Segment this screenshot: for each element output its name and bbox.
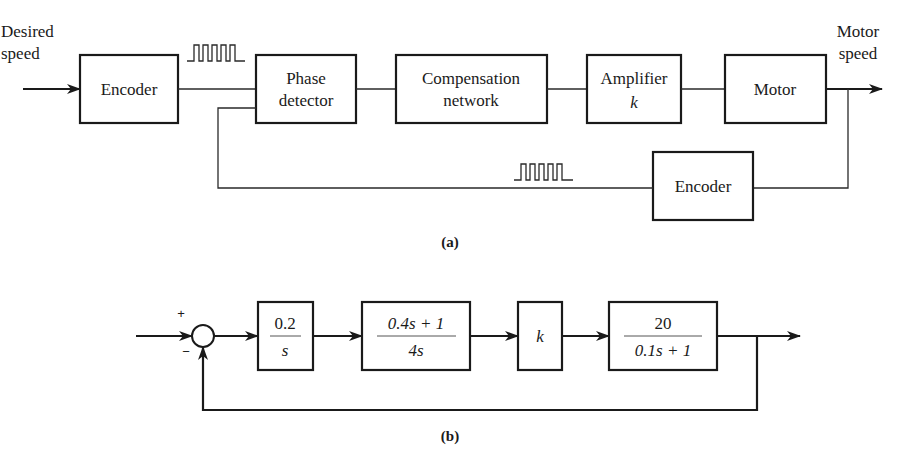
encoder-feedback-block: Encoder bbox=[653, 152, 753, 220]
caption-b: (b) bbox=[441, 428, 459, 445]
input-label-desired: Desired bbox=[1, 22, 54, 41]
tf-block-compensator: 0.4s + 1 4s bbox=[362, 302, 470, 370]
encoder-feedback-label: Encoder bbox=[675, 177, 732, 196]
tf2-numerator: 0.4s + 1 bbox=[388, 314, 444, 333]
compensation-label-1: Compensation bbox=[422, 69, 521, 88]
caption-a: (a) bbox=[441, 234, 459, 251]
encoder-forward-block: Encoder bbox=[80, 55, 178, 123]
compensation-network-block: Compensation network bbox=[396, 55, 547, 123]
block-diagram-canvas: Desired speed Encoder Phase detector Com… bbox=[0, 0, 904, 461]
tf-block-gain: k bbox=[518, 302, 562, 370]
tf-block-integrator: 0.2 s bbox=[258, 302, 313, 370]
input-label-speed: speed bbox=[1, 44, 40, 63]
tf3-gain: k bbox=[536, 327, 544, 346]
tf-block-motor: 20 0.1s + 1 bbox=[609, 302, 717, 370]
amplifier-label: Amplifier bbox=[600, 69, 667, 88]
tf4-numerator: 20 bbox=[655, 314, 672, 333]
phase-detector-label-1: Phase bbox=[286, 69, 326, 88]
output-label-motor: Motor bbox=[837, 22, 880, 41]
tf4-denominator: 0.1s + 1 bbox=[635, 341, 691, 360]
summing-junction bbox=[192, 325, 214, 347]
diagram-b: + − 0.2 s 0.4s + 1 4s k bbox=[136, 302, 800, 445]
diagram-a: Desired speed Encoder Phase detector Com… bbox=[1, 22, 882, 251]
compensation-label-2: network bbox=[443, 91, 499, 110]
pulse-train-icon bbox=[514, 164, 573, 180]
encoder-forward-label: Encoder bbox=[101, 80, 158, 99]
motor-label: Motor bbox=[754, 80, 797, 99]
sum-plus-sign: + bbox=[177, 306, 185, 321]
amplifier-gain: k bbox=[630, 93, 638, 112]
phase-detector-label-2: detector bbox=[279, 91, 334, 110]
tf1-numerator: 0.2 bbox=[274, 314, 295, 333]
pulse-train-icon bbox=[187, 45, 245, 61]
phase-detector-block: Phase detector bbox=[256, 55, 356, 123]
amplifier-block: Amplifier k bbox=[587, 55, 681, 123]
output-label-speed: speed bbox=[839, 44, 878, 63]
tf2-denominator: 4s bbox=[408, 341, 424, 360]
tf1-denominator: s bbox=[282, 341, 289, 360]
motor-block: Motor bbox=[725, 55, 826, 123]
sum-minus-sign: − bbox=[182, 344, 190, 359]
